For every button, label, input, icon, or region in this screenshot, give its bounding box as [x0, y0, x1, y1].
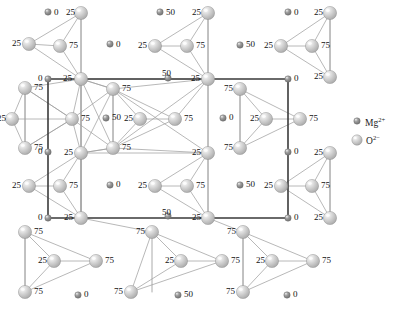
oxygen-ion-sphere[interactable]: [233, 141, 246, 154]
sphere-highlight: [171, 115, 175, 118]
oxygen-ion-sphere[interactable]: [22, 179, 35, 192]
magnesium-ion-sphere[interactable]: [284, 292, 290, 298]
atom-height-label: 75: [34, 227, 43, 236]
oxygen-ion-sphere[interactable]: [47, 254, 60, 267]
o-sphere-icon: [201, 6, 214, 19]
oxygen-ion-sphere[interactable]: [106, 141, 119, 154]
oxygen-ion-sphere[interactable]: [323, 70, 336, 83]
magnesium-ion-sphere[interactable]: [237, 42, 243, 48]
atom-height-label: 25: [192, 148, 201, 157]
oxygen-ion-sphere[interactable]: [148, 179, 161, 192]
magnesium-ion-sphere[interactable]: [285, 9, 291, 15]
oxygen-ion-sphere[interactable]: [180, 179, 193, 192]
oxygen-ion-sphere[interactable]: [236, 225, 249, 238]
magnesium-ion-sphere[interactable]: [103, 115, 109, 121]
oxygen-ion-sphere[interactable]: [65, 112, 78, 125]
oxygen-ion-sphere[interactable]: [168, 112, 181, 125]
oxygen-ion-sphere[interactable]: [323, 6, 336, 19]
oxygen-ion-sphere[interactable]: [274, 39, 287, 52]
bond-line: [131, 232, 152, 292]
oxygen-ion-sphere[interactable]: [201, 72, 214, 85]
atom-height-label: 75: [322, 256, 331, 265]
oxygen-ion-sphere[interactable]: [148, 39, 161, 52]
sphere-highlight: [151, 182, 155, 185]
atom-height-label: 0: [38, 147, 43, 156]
atom-height-label: 75: [321, 181, 330, 190]
bond-line: [131, 261, 181, 292]
oxygen-ion-sphere[interactable]: [18, 141, 31, 154]
atom-height-label: 25: [38, 256, 47, 265]
magnesium-ion-sphere[interactable]: [45, 215, 51, 221]
oxygen-ion-sphere[interactable]: [18, 225, 31, 238]
mg-sphere-icon: [285, 215, 291, 221]
magnesium-ion-sphere[interactable]: [45, 149, 51, 155]
oxygen-ion-sphere[interactable]: [306, 254, 319, 267]
magnesium-ion-sphere[interactable]: [45, 76, 51, 82]
o-sphere-icon: [145, 225, 158, 238]
o-sphere-icon: [22, 37, 35, 50]
magnesium-ion-sphere[interactable]: [157, 9, 163, 15]
atom-height-label: 25: [250, 114, 259, 123]
sphere-highlight: [56, 42, 60, 45]
oxygen-ion-sphere[interactable]: [124, 285, 137, 298]
oxygen-ion-sphere[interactable]: [180, 39, 193, 52]
sphere-highlight: [46, 216, 48, 217]
oxygen-ion-sphere[interactable]: [22, 37, 35, 50]
oxygen-ion-sphere[interactable]: [201, 6, 214, 19]
oxygen-ion-sphere[interactable]: [323, 211, 336, 224]
oxygen-ion-sphere[interactable]: [5, 112, 18, 125]
sphere-highlight: [285, 293, 287, 294]
sphere-highlight: [21, 288, 25, 291]
oxygen-ion-sphere[interactable]: [305, 39, 318, 52]
sphere-highlight: [21, 84, 25, 87]
o-sphere-icon: [259, 112, 272, 125]
oxygen-ion-sphere[interactable]: [201, 211, 214, 224]
oxygen-ion-sphere[interactable]: [74, 6, 87, 19]
magnesium-ion-sphere[interactable]: [285, 149, 291, 155]
oxygen-ion-sphere[interactable]: [259, 112, 272, 125]
magnesium-ion-sphere[interactable]: [237, 182, 243, 188]
atom-height-label: 25: [165, 256, 174, 265]
oxygen-ion-sphere[interactable]: [293, 112, 306, 125]
oxygen-ion-sphere[interactable]: [89, 254, 102, 267]
o-sphere-icon: [323, 6, 336, 19]
magnesium-ion-sphere[interactable]: [45, 9, 51, 15]
sphere-highlight: [204, 9, 208, 12]
magnesium-ion-sphere[interactable]: [175, 292, 181, 298]
o-sphere-icon: [133, 112, 146, 125]
oxygen-ion-sphere[interactable]: [106, 82, 119, 95]
oxygen-ion-sphere[interactable]: [323, 146, 336, 159]
magnesium-ion-sphere[interactable]: [75, 292, 81, 298]
oxygen-ion-sphere[interactable]: [74, 72, 87, 85]
oxygen-ion-sphere[interactable]: [236, 285, 249, 298]
oxygen-ion-sphere[interactable]: [274, 179, 287, 192]
o-sphere-icon: [65, 112, 78, 125]
magnesium-ion-sphere[interactable]: [285, 215, 291, 221]
oxygen-ion-sphere[interactable]: [145, 225, 158, 238]
magnesium-ion-sphere[interactable]: [285, 76, 291, 82]
sphere-highlight: [286, 216, 288, 217]
sphere-highlight: [109, 85, 113, 88]
oxygen-ion-sphere[interactable]: [53, 39, 66, 52]
mg-sphere-icon: [45, 76, 51, 82]
oxygen-ion-sphere[interactable]: [305, 179, 318, 192]
magnesium-ion-sphere[interactable]: [220, 115, 226, 121]
oxygen-ion-sphere[interactable]: [74, 211, 87, 224]
oxygen-ion-sphere[interactable]: [74, 146, 87, 159]
atom-height-label: 25: [64, 213, 73, 222]
atom-height-label: 25: [138, 181, 147, 190]
oxygen-ion-sphere[interactable]: [133, 112, 146, 125]
oxygen-ion-sphere[interactable]: [233, 82, 246, 95]
atom-height-label: 50: [184, 290, 193, 299]
magnesium-ion-sphere[interactable]: [107, 41, 113, 47]
oxygen-ion-sphere[interactable]: [18, 81, 31, 94]
oxygen-ion-sphere[interactable]: [53, 179, 66, 192]
oxygen-ion-sphere[interactable]: [174, 254, 187, 267]
oxygen-ion-sphere[interactable]: [215, 254, 228, 267]
oxygen-ion-sphere[interactable]: [18, 285, 31, 298]
magnesium-ion-sphere[interactable]: [107, 182, 113, 188]
sphere-highlight: [8, 115, 12, 118]
oxygen-ion-sphere[interactable]: [201, 146, 214, 159]
oxygen-ion-sphere[interactable]: [265, 254, 278, 267]
o-sphere-icon: [22, 179, 35, 192]
